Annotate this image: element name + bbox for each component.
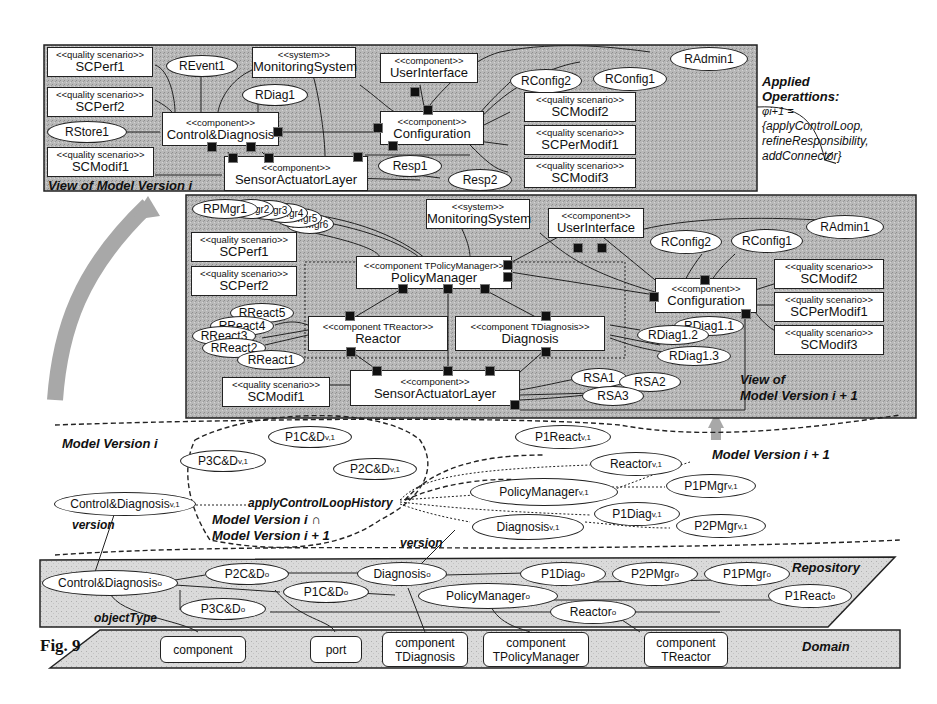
rconfig1-ellipse-i1[interactable]: RConfig1 bbox=[731, 229, 803, 253]
applied-ops-line2: refineResponsibility, bbox=[762, 134, 869, 149]
reactor-o-ellipse[interactable]: Reactoro bbox=[550, 600, 636, 624]
rpmgr1-ellipse[interactable]: RPMgr1 bbox=[192, 199, 258, 219]
p1pmgr-v1-ellipse[interactable]: P1PMgrv,1 bbox=[666, 474, 756, 498]
p2cd-v1-ellipse[interactable]: P2C&Dv,1 bbox=[333, 458, 417, 480]
p1cd-v1-ellipse[interactable]: P1C&Dv,1 bbox=[268, 426, 352, 448]
applied-ops-line3: addConnector} bbox=[762, 149, 841, 164]
port-icon bbox=[597, 243, 607, 253]
qs-scmodif2-box-i1[interactable]: <<quality scenario>> SCModif2 bbox=[774, 259, 884, 289]
port-icon bbox=[573, 243, 583, 253]
version-label-right: version bbox=[400, 536, 443, 550]
port-icon bbox=[480, 284, 490, 294]
diagnosis-box[interactable]: <<component TDiagnosis>> Diagnosis bbox=[455, 316, 605, 351]
control-diagnosis-o-ellipse[interactable]: Control&Diagnosiso bbox=[42, 570, 178, 596]
port-icon bbox=[503, 272, 513, 282]
qs-scmodif1-box-i1[interactable]: <<quality scenario>> SCModif1 bbox=[222, 377, 330, 407]
port-icon bbox=[353, 152, 363, 162]
revent1-ellipse[interactable]: REvent1 bbox=[166, 55, 238, 77]
rsa1-ellipse[interactable]: RSA1 bbox=[571, 368, 627, 388]
rsa3-ellipse[interactable]: RSA3 bbox=[582, 386, 644, 406]
port-icon bbox=[273, 127, 283, 137]
port-icon bbox=[398, 284, 408, 294]
port-icon bbox=[345, 311, 355, 321]
rdiag12-ellipse[interactable]: RDiag1.2 bbox=[637, 325, 709, 345]
rreact1-ellipse[interactable]: RReact1 bbox=[237, 350, 305, 370]
p1diag-v1-ellipse[interactable]: P1Diagv,1 bbox=[594, 502, 680, 526]
p2pmgr-o-ellipse[interactable]: P2PMgro bbox=[612, 562, 698, 586]
p1cd-o-ellipse[interactable]: P1C&Do bbox=[283, 581, 369, 603]
monitoring-system-box[interactable]: <<system>> MonitoringSystem bbox=[252, 47, 356, 78]
port-icon bbox=[485, 366, 495, 376]
applied-ops-line1: {applyControlLoop, bbox=[762, 119, 863, 134]
policy-manager-v1-ellipse[interactable]: PolicyManagerv,1 bbox=[470, 478, 618, 506]
p1diag-o-ellipse[interactable]: P1Diago bbox=[520, 562, 606, 586]
radmin1-ellipse-i1[interactable]: RAdmin1 bbox=[806, 215, 884, 239]
port-icon bbox=[346, 347, 356, 357]
resp1-ellipse[interactable]: Resp1 bbox=[378, 155, 442, 177]
sensor-actuator-layer-box[interactable]: <<component>> SensorActuatorLayer bbox=[224, 156, 368, 191]
domain-type-port[interactable]: port bbox=[310, 636, 362, 663]
control-diagnosis-box[interactable]: <<component>> Control&Diagnosis bbox=[162, 112, 279, 146]
port-icon bbox=[541, 347, 551, 357]
diagnosis-v1-ellipse[interactable]: Diagnosisv,1 bbox=[472, 514, 584, 540]
applied-ops-title-2: Operattions: bbox=[762, 89, 839, 104]
qs-scpermodif1-box-i1[interactable]: <<quality scenario>> SCPerModif1 bbox=[774, 292, 884, 322]
qs-scmodif2-box[interactable]: <<quality scenario>> SCModif2 bbox=[524, 92, 636, 122]
applied-ops-symbol: φi+1 = bbox=[762, 104, 794, 119]
view-i-title: View of Model Version i bbox=[48, 178, 192, 193]
qs-scpermodif1-box[interactable]: <<quality scenario>> SCPerModif1 bbox=[524, 125, 636, 155]
reactor-box[interactable]: <<component TReactor>> Reactor bbox=[308, 316, 448, 351]
p1react-v1-ellipse[interactable]: P1Reactv,1 bbox=[515, 425, 611, 449]
qs-scperf2-box-i1[interactable]: <<quality scenario>> SCPerf2 bbox=[191, 266, 297, 296]
apply-control-loop-history-label: applyControlLoopHistory bbox=[248, 496, 393, 510]
p1react-o-ellipse[interactable]: P1Reacto bbox=[768, 584, 852, 608]
port-icon bbox=[541, 311, 551, 321]
port-icon bbox=[503, 260, 513, 270]
monitoring-system-box-i1[interactable]: <<system>> MonitoringSystem bbox=[426, 199, 530, 229]
domain-type-tpolicymanager[interactable]: component TPolicyManager bbox=[483, 632, 589, 667]
repository-label: Repository bbox=[792, 560, 860, 575]
rconfig1-ellipse[interactable]: RConfig1 bbox=[593, 67, 667, 91]
port-icon bbox=[372, 366, 382, 376]
radmin1-ellipse[interactable]: RAdmin1 bbox=[670, 47, 748, 71]
user-interface-box[interactable]: <<component>> UserInterface bbox=[380, 53, 478, 83]
policy-manager-o-ellipse[interactable]: PolicyManagero bbox=[418, 583, 558, 609]
p3cd-o-ellipse[interactable]: P3C&Do bbox=[180, 598, 266, 620]
qs-scmodif3-box-i1[interactable]: <<quality scenario>> SCModif3 bbox=[774, 325, 884, 355]
qs-scperf1-box[interactable]: <<quality scenario>> SCPerf1 bbox=[47, 47, 153, 77]
domain-type-treactor[interactable]: component TReactor bbox=[644, 632, 728, 667]
domain-type-tdiagnosis[interactable]: component TDiagnosis bbox=[382, 632, 468, 667]
rstore1-ellipse[interactable]: RStore1 bbox=[47, 121, 127, 143]
port-icon bbox=[741, 309, 751, 319]
version-label-left: version bbox=[72, 518, 115, 532]
domain-type-component[interactable]: component bbox=[160, 636, 246, 663]
resp2-ellipse[interactable]: Resp2 bbox=[448, 169, 512, 191]
rdiag1-ellipse[interactable]: RDiag1 bbox=[242, 84, 308, 106]
applied-ops-title-1: Applied bbox=[762, 74, 810, 89]
p2pmgr-v1-ellipse[interactable]: P2PMgrv,1 bbox=[676, 514, 766, 538]
p2cd-o-ellipse[interactable]: P2C&Do bbox=[205, 563, 289, 585]
rconfig2-ellipse-i1[interactable]: RConfig2 bbox=[650, 230, 722, 254]
user-interface-box-i1[interactable]: <<component>> UserInterface bbox=[548, 208, 644, 238]
qs-scmodif1-box[interactable]: <<quality scenario>> SCModif1 bbox=[47, 147, 154, 177]
port-icon bbox=[649, 292, 659, 302]
diagnosis-o-ellipse[interactable]: Diagnosiso bbox=[357, 562, 447, 586]
port-icon bbox=[246, 142, 256, 152]
qs-scmodif3-box[interactable]: <<quality scenario>> SCModif3 bbox=[524, 158, 636, 188]
port-icon bbox=[207, 142, 217, 152]
p1pmgr-o-ellipse[interactable]: P1PMgro bbox=[704, 562, 790, 586]
qs-scperf2-box[interactable]: <<quality scenario>> SCPerf2 bbox=[47, 87, 153, 117]
port-icon bbox=[423, 105, 433, 115]
model-version-i1-label: Model Version i + 1 bbox=[712, 447, 830, 462]
port-icon bbox=[388, 141, 398, 151]
reactor-v1-ellipse[interactable]: Reactorv,1 bbox=[590, 452, 682, 476]
rdiag13-ellipse[interactable]: RDiag1.3 bbox=[657, 346, 731, 366]
domain-label: Domain bbox=[802, 639, 850, 654]
p3cd-v1-ellipse[interactable]: P3C&Dv,1 bbox=[180, 450, 266, 472]
control-diagnosis-v1-ellipse[interactable]: Control&Diagnosisv,1 bbox=[54, 492, 196, 516]
rconfig2-ellipse[interactable]: RConfig2 bbox=[510, 69, 582, 93]
figure-label: Fig. 9 bbox=[40, 636, 81, 656]
port-icon bbox=[443, 284, 453, 294]
qs-scperf1-box-i1[interactable]: <<quality scenario>> SCPerf1 bbox=[191, 232, 297, 262]
configuration-box[interactable]: <<component>> Configuration bbox=[380, 111, 484, 145]
